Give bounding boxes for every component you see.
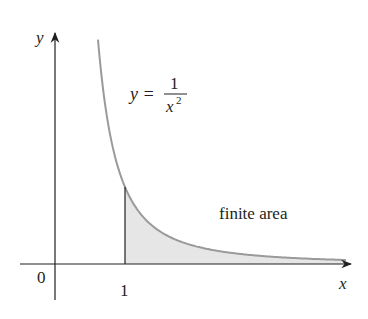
svg-text:y =: y =	[128, 84, 155, 104]
function-lhs: y =	[128, 84, 155, 104]
chart-canvas: y x 0 1 y = 1 x 2 finite area	[0, 0, 368, 319]
function-denominator: x	[165, 97, 174, 116]
function-label: y = 1 x 2	[128, 74, 187, 116]
y-axis-label: y	[34, 28, 44, 47]
finite-area-annotation: finite area	[219, 204, 288, 223]
origin-label: 0	[37, 268, 46, 287]
function-exponent: 2	[176, 94, 182, 106]
function-numerator: 1	[170, 74, 179, 93]
x-axis-label: x	[338, 274, 347, 293]
tick-label-1: 1	[120, 281, 129, 300]
